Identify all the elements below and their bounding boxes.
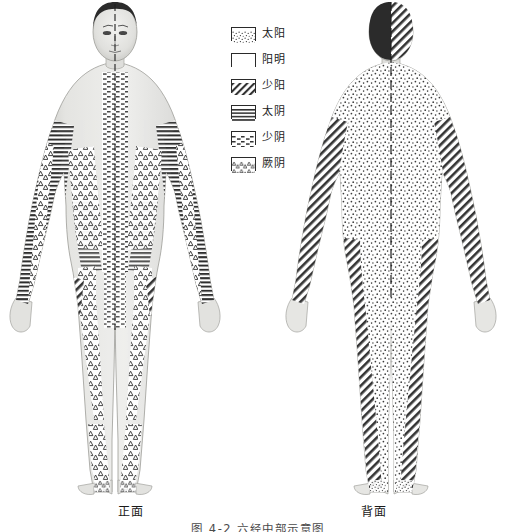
- back-hair-hatched: [391, 2, 413, 60]
- body-diagram-front: [8, 0, 223, 500]
- figure-title: 图 4-2 六经中部示意图: [0, 520, 516, 532]
- front-hand-right: [198, 298, 220, 332]
- legend-swatch-shaoyin: [231, 131, 256, 145]
- back-zone-taiyang: [298, 60, 488, 500]
- back-hair-dark: [369, 2, 391, 60]
- legend-swatch-taiyin: [231, 105, 256, 119]
- legend-swatch-shaoyang: [231, 79, 256, 93]
- back-hand-right: [474, 298, 496, 332]
- back-hand-left: [286, 298, 308, 332]
- caption-back: 背面: [334, 502, 414, 519]
- legend-swatch-yangming: [231, 53, 256, 67]
- legend-swatch-jueyin: [231, 157, 256, 171]
- front-hand-left: [10, 298, 32, 332]
- back-feet-zones: [370, 480, 412, 492]
- figure-page: 太阳 阳明 少阳 太阴: [0, 0, 516, 532]
- back-arm-zone-shaoyang-left: [278, 120, 348, 315]
- body-diagram-back: [278, 0, 508, 500]
- front-feet-zones: [94, 480, 136, 492]
- caption-front: 正面: [91, 502, 171, 519]
- front-eye-right: [119, 31, 127, 35]
- front-eye-left: [103, 31, 111, 35]
- back-arm-zone-shaoyang-right: [438, 120, 508, 315]
- legend-swatch-taiyang: [231, 27, 256, 41]
